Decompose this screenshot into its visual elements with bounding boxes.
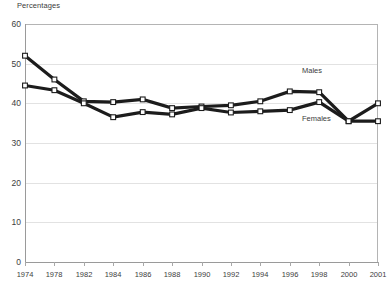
data-point-males-2001 — [376, 101, 381, 106]
data-point-males-1998 — [317, 90, 322, 95]
series-layer — [0, 0, 388, 288]
series-label-females: Females — [302, 114, 331, 123]
data-point-males-1974 — [23, 53, 28, 58]
data-point-males-1992 — [229, 103, 234, 108]
data-point-males-1988 — [170, 106, 175, 111]
data-point-females-1994 — [258, 109, 263, 114]
series-line-males — [25, 56, 378, 122]
data-point-males-1994 — [258, 99, 263, 104]
data-point-males-1984 — [111, 100, 116, 105]
data-point-females-1992 — [229, 110, 234, 115]
data-point-females-1974 — [23, 83, 28, 88]
data-point-males-1996 — [287, 89, 292, 94]
series-label-males: Males — [302, 66, 322, 75]
chart-container: Percentages 0102030405060 19741978198219… — [0, 0, 388, 288]
data-point-females-1986 — [140, 110, 145, 115]
data-point-females-1998 — [317, 100, 322, 105]
data-point-females-1996 — [287, 108, 292, 113]
data-point-females-1982 — [81, 101, 86, 106]
data-point-females-1978 — [52, 88, 57, 93]
data-point-females-2000 — [346, 119, 351, 124]
data-point-females-1990 — [199, 106, 204, 111]
data-point-males-1978 — [52, 77, 57, 82]
data-point-males-1986 — [140, 97, 145, 102]
data-point-females-2001 — [376, 119, 381, 124]
data-point-females-1984 — [111, 115, 116, 120]
data-point-females-1988 — [170, 112, 175, 117]
